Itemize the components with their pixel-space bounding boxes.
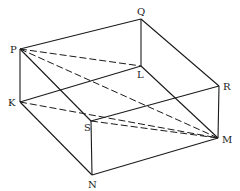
edge-NM [92, 138, 218, 175]
edge-RM [218, 86, 219, 138]
vertex-label-n: N [88, 180, 97, 190]
vertex-label-q: Q [137, 7, 145, 17]
vertex-label-m: M [222, 135, 232, 145]
box-diagram [0, 0, 240, 191]
vertex-label-r: R [223, 82, 231, 92]
edge-KL [20, 66, 141, 102]
edge-PS [20, 49, 91, 121]
edge-SN [91, 121, 92, 175]
vertex-label-p: P [10, 45, 17, 55]
vertex-label-l: L [137, 70, 144, 80]
edge-PQ [20, 19, 141, 49]
solid-edges [20, 19, 219, 175]
edge-LM [141, 66, 218, 138]
vertex-label-k: K [8, 98, 15, 108]
vertex-label-s: S [84, 123, 91, 133]
edge-SR [91, 86, 219, 121]
edge-QR [141, 19, 219, 86]
